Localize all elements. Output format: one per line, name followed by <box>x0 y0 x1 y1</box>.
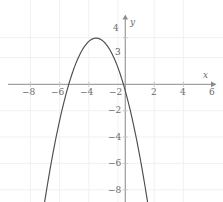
y-tick-label--4: −4 <box>108 133 121 142</box>
x-tick-label-6: 6 <box>209 88 215 97</box>
y-axis <box>123 15 128 202</box>
x-tick-label-2: 2 <box>151 88 157 97</box>
y-axis-label: y <box>130 18 135 27</box>
parabola-plot <box>0 0 223 202</box>
graph-figure: −8 −6 −4 −2 2 4 6 4 3 −2 −4 −6 −8 x y <box>0 0 223 202</box>
x-tick-label--8: −8 <box>22 88 35 97</box>
y-tick-label--8: −8 <box>108 186 121 195</box>
x-tick-label-4: 4 <box>180 88 186 97</box>
y-tick-label--6: −6 <box>108 159 121 168</box>
y-tick-label-3: 3 <box>115 48 121 57</box>
y-tick-label--2: −2 <box>108 106 121 115</box>
x-tick-label--4: −4 <box>80 88 93 97</box>
y-tick-label-4: 4 <box>113 24 119 33</box>
gridlines <box>0 0 223 202</box>
x-tick-label--2: −2 <box>109 88 122 97</box>
x-axis-label: x <box>203 71 208 80</box>
parabola-curve <box>45 38 148 202</box>
x-tick-label--6: −6 <box>51 88 64 97</box>
